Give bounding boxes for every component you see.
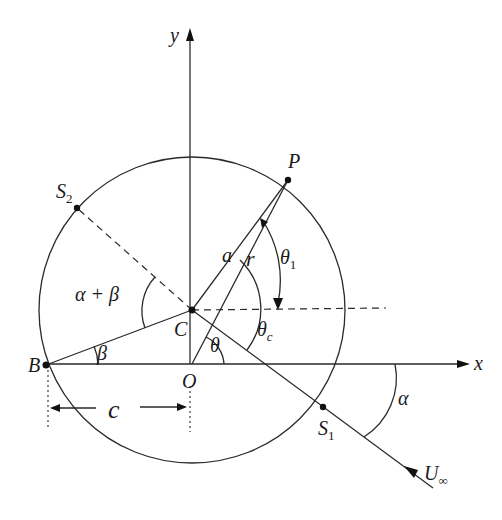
radius-a-line <box>192 180 288 310</box>
theta-label: θ <box>210 334 220 356</box>
theta-1-sub: 1 <box>290 257 297 272</box>
x-axis-label: x <box>473 352 483 374</box>
point-s2-label: S2 <box>56 180 73 206</box>
point-p-label: P <box>287 150 300 172</box>
theta-1-label: θ1 <box>280 246 296 272</box>
s2-main: S <box>56 180 66 202</box>
x-axis <box>46 360 470 368</box>
point-c <box>189 307 196 314</box>
s1-sub: 1 <box>328 428 335 443</box>
point-o-label: O <box>182 370 196 392</box>
alpha-label: α <box>398 387 409 409</box>
s1-main: S <box>318 417 328 439</box>
length-a-label: a <box>222 244 232 266</box>
flow-line <box>192 310 433 488</box>
y-axis <box>186 28 194 364</box>
point-s2 <box>74 205 80 211</box>
beta-label: β <box>96 342 107 365</box>
alpha-plus-beta-label: α + β <box>75 283 119 306</box>
freestream-sub: ∞ <box>438 473 447 488</box>
length-c-label: c <box>108 395 120 424</box>
point-s1-label: S1 <box>318 417 335 443</box>
diagram-canvas: y x c P C O B S2 <box>0 0 502 520</box>
r-line <box>192 180 288 364</box>
alpha-arc <box>364 364 396 437</box>
theta-1-arc <box>263 221 280 303</box>
theta-c-label: θc <box>257 318 273 344</box>
theta-1-arrowhead <box>273 298 283 310</box>
theta-c-sub: c <box>267 329 273 344</box>
theta-c-main: θ <box>257 318 267 340</box>
bc-line <box>46 310 192 365</box>
point-b <box>43 362 50 369</box>
y-axis-label: y <box>168 24 179 47</box>
s2-sub: 2 <box>66 191 73 206</box>
c-arrowhead-right <box>177 403 187 411</box>
point-c-label: C <box>174 318 188 340</box>
flow-arrowhead <box>404 466 418 478</box>
point-b-label: B <box>28 354 40 376</box>
length-r-label: r <box>246 246 255 271</box>
point-s1 <box>320 404 326 410</box>
point-p <box>285 177 291 183</box>
theta-1-main: θ <box>280 246 290 268</box>
c-arrowhead-left <box>50 404 60 412</box>
alpha-plus-beta-arc <box>142 277 155 328</box>
